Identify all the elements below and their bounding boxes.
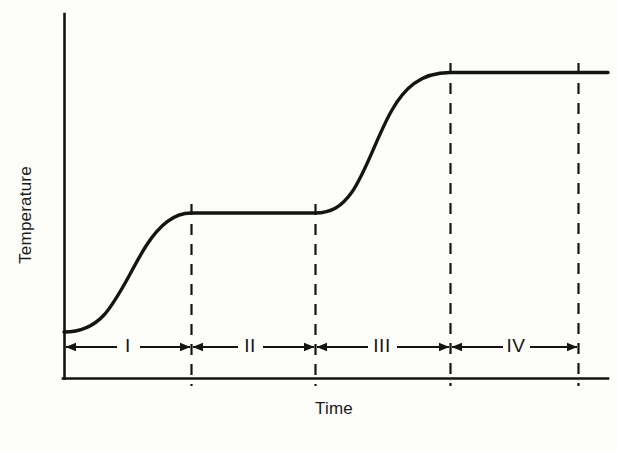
temperature-curve bbox=[64, 73, 608, 333]
y-axis-title: Temperature bbox=[16, 95, 36, 335]
stage-label-I: I bbox=[125, 335, 131, 357]
x-axis-title: Time bbox=[284, 399, 384, 419]
heating-curve-plot bbox=[0, 0, 617, 453]
stage-label-II: II bbox=[244, 335, 256, 357]
chart-figure: I II III IV Temperature Time bbox=[0, 0, 617, 453]
stage-label-IV: IV bbox=[507, 335, 526, 357]
curve-path bbox=[64, 73, 608, 333]
stage-label-III: III bbox=[373, 335, 390, 357]
axis-lines bbox=[63, 14, 608, 379]
